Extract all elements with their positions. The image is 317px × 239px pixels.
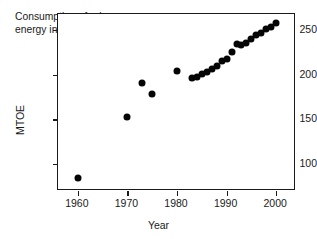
y-axis-tick	[53, 119, 58, 120]
data-point	[149, 91, 156, 98]
x-axis-tick-label: 1970	[115, 197, 138, 209]
x-axis-tick	[276, 191, 277, 196]
x-axis-tick-label: 1980	[164, 197, 187, 209]
x-axis-tick	[78, 191, 79, 196]
data-point	[74, 174, 81, 181]
plot-area	[57, 13, 295, 190]
x-axis-tick-label: 1990	[214, 197, 237, 209]
y-axis-tick	[53, 30, 58, 31]
y-axis-title: MTOE	[14, 104, 26, 134]
x-axis-tick-label: 2000	[263, 197, 286, 209]
data-point	[223, 55, 230, 62]
y-axis-tick	[53, 75, 58, 76]
x-axis-tick-label: 1960	[65, 197, 88, 209]
y-axis-tick	[53, 164, 58, 165]
x-axis-tick	[127, 191, 128, 196]
x-axis-tick	[177, 191, 178, 196]
data-point	[228, 48, 235, 55]
chart-figure: Consumption of primary energy in France …	[0, 0, 317, 239]
x-axis-tick	[227, 191, 228, 196]
data-point	[174, 68, 181, 75]
data-point	[273, 19, 280, 26]
data-point	[124, 113, 131, 120]
data-point	[139, 79, 146, 86]
x-axis-title: Year	[0, 219, 317, 231]
